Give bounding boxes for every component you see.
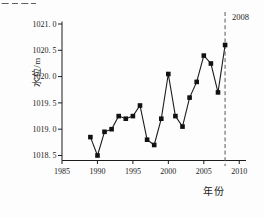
data-point — [159, 116, 164, 121]
data-point — [88, 135, 93, 140]
data-point — [102, 130, 107, 135]
data-point — [187, 95, 192, 100]
x-tick-label: 1985 — [54, 167, 70, 176]
y-tick-label: 1020. 5 — [33, 46, 57, 55]
clipped-text-fragment — [2, 0, 42, 5]
data-point — [131, 114, 136, 119]
y-tick-label: 1021. 0 — [33, 20, 57, 29]
y-tick-label: 1019. 5 — [33, 99, 57, 108]
data-point — [124, 116, 129, 121]
data-point — [209, 61, 214, 66]
x-tick-label: 1990 — [89, 167, 105, 176]
x-tick-label: 2000 — [160, 167, 176, 176]
data-point — [152, 143, 157, 148]
water-level-chart-figure: 水位/m 年份 2008 1021. 01020. 51020. 01019. … — [0, 0, 264, 218]
data-point — [145, 137, 150, 142]
x-tick-label: 2005 — [196, 167, 212, 176]
x-axis-title: 年份 — [203, 183, 225, 198]
data-point — [166, 72, 171, 77]
y-tick-label: 1019. 0 — [33, 125, 57, 134]
y-tick-label: 1018. 5 — [33, 151, 57, 160]
data-point — [95, 153, 100, 158]
annotation-2008-label: 2008 — [232, 12, 249, 22]
data-point — [116, 114, 121, 119]
data-line — [90, 45, 225, 156]
data-point — [216, 90, 221, 95]
data-point — [180, 124, 185, 129]
data-point — [138, 103, 143, 108]
data-point — [202, 53, 207, 58]
x-tick-label: 1995 — [125, 167, 141, 176]
data-point — [109, 127, 114, 132]
x-tick-label: 2010 — [231, 167, 247, 176]
data-point — [223, 43, 228, 48]
data-point — [194, 80, 199, 85]
data-point — [173, 114, 178, 119]
y-axis-title: 水位/m — [30, 57, 43, 87]
